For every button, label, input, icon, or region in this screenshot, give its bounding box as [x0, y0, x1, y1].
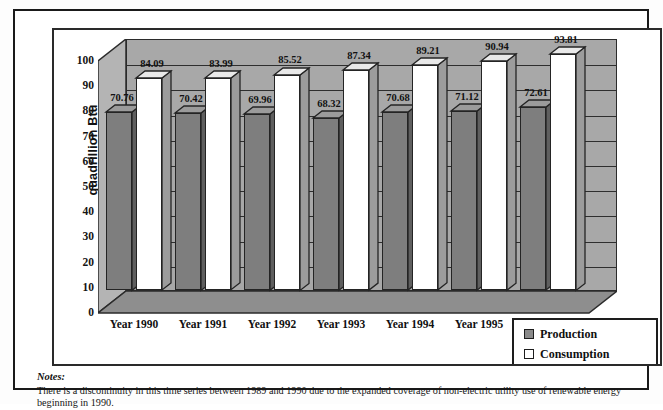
notes-title: Notes:	[37, 371, 655, 384]
y-axis: quadrillion Btu 0102030405060708090100	[54, 39, 98, 324]
y-tick-label: 10	[54, 282, 94, 294]
bar-3d-faces	[412, 58, 449, 292]
notes-body: There is a discontinuity in this time se…	[37, 385, 655, 410]
bar-production	[313, 118, 339, 290]
x-tick-label: Year 1993	[304, 318, 378, 330]
bar-production	[106, 112, 132, 290]
legend-label-consumption: Consumption	[540, 347, 609, 362]
x-tick-label: Year 1992	[235, 318, 309, 330]
y-tick-label: 80	[54, 105, 94, 117]
bar-production	[520, 107, 546, 290]
bar-production	[244, 114, 270, 290]
bar-consumption	[550, 54, 576, 290]
x-tick-label: Year 1994	[373, 318, 447, 330]
legend-label-production: Production	[540, 327, 597, 342]
y-tick-label: 90	[54, 80, 94, 92]
bar-production	[382, 112, 408, 290]
y-tick-label: 30	[54, 231, 94, 243]
bar-consumption	[343, 70, 369, 290]
x-tick-label: Year 1991	[166, 318, 240, 330]
bar-production	[451, 111, 477, 290]
y-tick-label: 60	[54, 156, 94, 168]
bar-value-label: 89.21	[408, 45, 448, 56]
y-tick-label: 70	[54, 131, 94, 143]
bar-3d-faces	[136, 71, 173, 292]
bar-consumption	[274, 75, 300, 291]
plot-floor	[98, 290, 617, 314]
bar-value-label: 84.09	[132, 58, 172, 69]
legend-swatch-consumption-icon	[524, 349, 534, 359]
bar-consumption	[136, 78, 162, 290]
page-outer-frame: quadrillion Btu 0102030405060708090100 7…	[13, 9, 649, 390]
y-tick-label: 0	[54, 307, 94, 319]
bar-3d-faces	[481, 54, 518, 292]
chart-legend: Production Consumption	[512, 318, 658, 366]
x-tick-label: Year 1990	[97, 318, 171, 330]
y-tick-label: 40	[54, 206, 94, 218]
bar-consumption	[205, 78, 231, 290]
plot-area: 70.7684.0970.4283.9969.9685.5268.3287.34…	[98, 39, 617, 313]
legend-item-consumption: Consumption	[524, 344, 656, 364]
y-tick-label: 100	[54, 55, 94, 67]
bar-consumption	[481, 61, 507, 290]
bar-3d-faces	[550, 47, 587, 292]
bar-production	[175, 113, 201, 290]
bar-value-label: 93.81	[546, 34, 586, 45]
y-tick-label: 20	[54, 257, 94, 269]
bar-value-label: 85.52	[270, 54, 310, 65]
y-tick-label: 50	[54, 181, 94, 193]
bar-value-label: 87.34	[339, 50, 379, 61]
bar-consumption	[412, 65, 438, 290]
legend-swatch-production-icon	[524, 329, 534, 339]
legend-item-production: Production	[524, 324, 656, 344]
bar-3d-faces	[343, 63, 380, 292]
chart-frame: quadrillion Btu 0102030405060708090100 7…	[52, 28, 662, 366]
bar-value-label: 90.94	[477, 41, 517, 52]
bar-3d-faces	[274, 68, 311, 293]
x-tick-label: Year 1995	[442, 318, 516, 330]
bar-value-label: 83.99	[201, 58, 241, 69]
bar-3d-faces	[205, 71, 242, 292]
notes-block: Notes: There is a discontinuity in this …	[37, 371, 655, 410]
